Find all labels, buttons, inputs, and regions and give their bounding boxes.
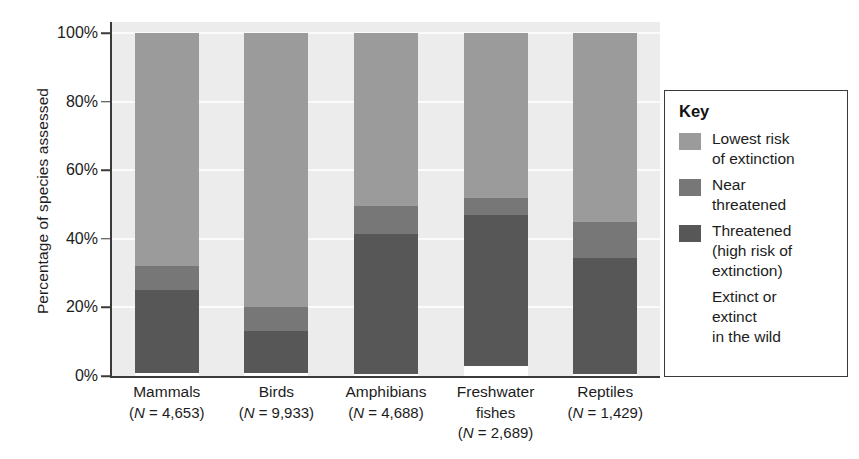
y-axis-tick-labels: 100%80%60%40%20%0%: [32, 0, 98, 459]
bar-segment-near_threatened[interactable]: [135, 266, 199, 290]
bar-reptiles[interactable]: [573, 22, 637, 376]
legend-swatch-1: [679, 179, 701, 196]
stacked-bar-chart-figure: Percentage of species assessed 100%80%60…: [0, 0, 859, 459]
legend-label-3: Extinct orextinctin the wild: [712, 287, 842, 347]
x-label-line: (N = 2,689): [429, 423, 563, 444]
bar-segment-threatened[interactable]: [354, 234, 418, 375]
bar-segment-threatened[interactable]: [244, 331, 308, 372]
legend-box: Key Lowest riskof extinctionNearthreaten…: [664, 90, 848, 377]
y-tick-mark-80: [101, 101, 110, 103]
legend-label-2: Threatened(high risk ofextinction): [712, 221, 842, 281]
y-tick-label-80: 80%: [36, 93, 98, 111]
legend-label-1: Nearthreatened: [712, 175, 842, 215]
y-tick-mark-20: [101, 307, 110, 309]
bar-segment-near_threatened[interactable]: [244, 307, 308, 331]
legend-label-line: threatened: [712, 195, 842, 215]
y-tick-label-60: 60%: [36, 161, 98, 179]
x-axis-category-labels: Mammals(N = 4,653)Birds(N = 9,933)Amphib…: [112, 382, 660, 459]
legend-swatch-3: [679, 291, 701, 308]
legend-label-line: (high risk of: [712, 241, 842, 261]
legend-label-line: extinction): [712, 261, 842, 281]
bar-segment-extinct[interactable]: [573, 374, 637, 376]
bar-segment-threatened[interactable]: [135, 290, 199, 372]
bar-birds[interactable]: [244, 22, 308, 376]
bar-segment-lowest_risk[interactable]: [464, 33, 528, 198]
bar-freshwater-fishes[interactable]: [464, 22, 528, 376]
plot-area: [112, 22, 660, 376]
bar-segment-lowest_risk[interactable]: [135, 33, 199, 266]
bar-segment-extinct[interactable]: [244, 373, 308, 376]
y-tick-label-20: 20%: [36, 298, 98, 316]
y-tick-mark-60: [101, 169, 110, 171]
y-tick-label-100: 100%: [36, 24, 98, 42]
bar-segment-lowest_risk[interactable]: [244, 33, 308, 307]
bar-segment-extinct[interactable]: [135, 373, 199, 376]
bar-segment-near_threatened[interactable]: [354, 206, 418, 233]
bar-mammals[interactable]: [135, 22, 199, 376]
y-tick-label-0: 0%: [36, 367, 98, 385]
x-axis-line: [110, 376, 660, 378]
bar-segment-lowest_risk[interactable]: [573, 33, 637, 222]
x-label-reptiles: Reptiles(N = 1,429): [538, 382, 672, 423]
bar-segment-extinct[interactable]: [354, 374, 418, 376]
y-tick-mark-40: [101, 238, 110, 240]
bar-amphibians[interactable]: [354, 22, 418, 376]
bar-segment-near_threatened[interactable]: [464, 198, 528, 215]
legend-title: Key: [679, 102, 709, 121]
bar-segment-lowest_risk[interactable]: [354, 33, 418, 206]
legend-label-0: Lowest riskof extinction: [712, 129, 842, 169]
y-tick-mark-0: [101, 375, 110, 377]
y-tick-mark-100: [101, 32, 110, 34]
bar-segment-near_threatened[interactable]: [573, 222, 637, 258]
legend-label-line: Lowest risk: [712, 129, 842, 149]
legend-label-line: extinct: [712, 307, 842, 327]
legend-label-line: of extinction: [712, 149, 842, 169]
bar-segment-extinct[interactable]: [464, 366, 528, 376]
legend-label-line: Extinct or: [712, 287, 842, 307]
bar-segment-threatened[interactable]: [573, 258, 637, 375]
legend-swatch-2: [679, 225, 701, 242]
x-label-line: (N = 1,429): [538, 403, 672, 424]
legend-swatch-0: [679, 133, 701, 150]
legend-label-line: in the wild: [712, 327, 842, 347]
legend-label-line: Threatened: [712, 221, 842, 241]
x-label-line: Reptiles: [538, 382, 672, 403]
legend-label-line: Near: [712, 175, 842, 195]
bar-segment-threatened[interactable]: [464, 215, 528, 366]
y-tick-label-40: 40%: [36, 230, 98, 248]
bar-series-group: [112, 22, 660, 376]
